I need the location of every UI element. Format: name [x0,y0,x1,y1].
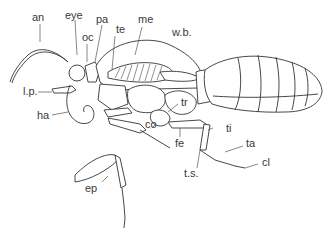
label-tibia: ti [226,123,232,134]
head-eye-shape [69,65,85,81]
label-me: me [138,14,153,25]
label-wing-base: w.b. [172,27,192,38]
label-coxa: co [145,119,157,130]
ep-leg-shape [75,155,118,182]
insect-drawing [0,0,331,237]
label-claw: cl [262,157,270,168]
tarsus-shape [200,150,245,168]
label-ep: ep [85,183,97,194]
label-te: te [116,24,125,35]
insect-diagram: an eye pa me oc te w.b. l.p. ha tr co ti… [0,0,331,237]
antenna-shape [10,50,68,82]
label-eye: eye [65,10,83,21]
label-tibial-spur: t.s. [184,168,199,179]
labial-palp-shape [52,86,76,93]
label-antenna: an [32,12,44,23]
label-hamulus: ha [37,110,49,121]
abdomen-shape [204,56,322,112]
label-femur: fe [175,138,184,149]
label-oc: oc [82,32,94,43]
label-pa: pa [96,14,108,25]
label-labial-palp: l.p. [23,86,38,97]
label-trochanter: tr [181,97,188,108]
label-tarsus: ta [246,138,255,149]
femur-shape [168,120,206,128]
